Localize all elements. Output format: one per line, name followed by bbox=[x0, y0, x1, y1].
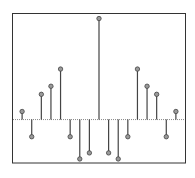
stem-marker bbox=[78, 157, 82, 161]
stem-plot bbox=[0, 0, 195, 178]
stem-marker bbox=[39, 92, 43, 96]
stem-marker bbox=[126, 135, 130, 139]
stem-marker bbox=[106, 151, 110, 155]
stem-marker bbox=[68, 135, 72, 139]
stem-marker bbox=[116, 157, 120, 161]
stem-marker bbox=[87, 151, 91, 155]
stem-marker bbox=[174, 109, 178, 113]
stem-marker bbox=[49, 84, 53, 88]
stem-series bbox=[20, 16, 178, 161]
stem-marker bbox=[154, 92, 158, 96]
stem-marker bbox=[164, 135, 168, 139]
stem-marker bbox=[97, 16, 101, 20]
stem-marker bbox=[135, 67, 139, 71]
stem-marker bbox=[20, 109, 24, 113]
stem-marker bbox=[30, 135, 34, 139]
stem-marker bbox=[58, 67, 62, 71]
stem-marker bbox=[145, 84, 149, 88]
